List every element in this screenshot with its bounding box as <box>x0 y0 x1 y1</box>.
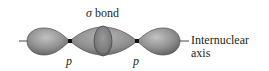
left-p-orbital-label: p <box>66 55 72 67</box>
bond-text: bond <box>95 6 119 20</box>
sigma-bond-diagram: σ bond p p Internuclear axis <box>0 0 269 71</box>
axis-label-line2: axis <box>191 47 249 60</box>
left-p-outer-lobe <box>27 28 70 55</box>
left-nucleus-node <box>68 39 72 43</box>
sigma-bond-label: σ bond <box>86 7 119 19</box>
sigma-symbol: σ <box>86 6 92 20</box>
overlap-ellipse <box>94 26 112 56</box>
right-nucleus-node <box>135 39 139 43</box>
right-p-orbital-label: p <box>133 55 139 67</box>
internuclear-axis-label: Internuclear axis <box>191 34 249 60</box>
right-p-outer-lobe <box>137 28 180 55</box>
